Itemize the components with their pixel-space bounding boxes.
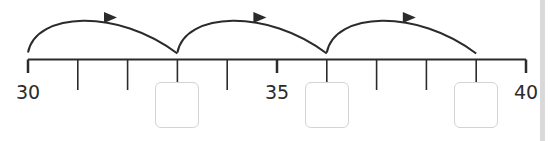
jump-arcs — [28, 12, 476, 54]
answer-box-3[interactable] — [454, 82, 498, 128]
jump-arc-3 — [327, 21, 476, 54]
answer-box-2[interactable] — [305, 82, 349, 128]
jump-arc-2 — [177, 21, 326, 54]
answer-box-1[interactable] — [155, 82, 199, 128]
tick-label-30: 30 — [16, 83, 40, 102]
arrow-right-icon — [253, 12, 266, 23]
scrollbar-edge — [540, 0, 545, 141]
tick-label-35: 35 — [265, 83, 289, 102]
arrow-right-icon — [104, 12, 117, 23]
jump-arc-1 — [28, 21, 177, 54]
arrow-right-icon — [403, 12, 416, 23]
tick-label-40: 40 — [514, 83, 538, 102]
